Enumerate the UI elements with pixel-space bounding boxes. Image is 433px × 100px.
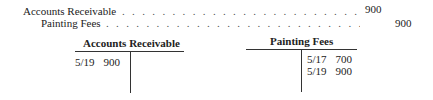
t-account-center-rule bbox=[301, 49, 302, 92]
entry-date: 5/19 bbox=[307, 65, 327, 77]
journal-debit-amount: 900 bbox=[365, 4, 382, 15]
leader-dots: . . . . . . . . . . . . . . . . . . . . … bbox=[122, 6, 360, 17]
t-account-title: Accounts Receivable bbox=[83, 38, 180, 49]
entry-date: 5/19 bbox=[75, 56, 95, 68]
t-account-title: Painting Fees bbox=[270, 36, 333, 47]
credit-entry: 5/17700 bbox=[307, 54, 352, 65]
journal-debit-account: Accounts Receivable bbox=[23, 6, 116, 17]
debit-entry: 5/19900 bbox=[75, 57, 120, 68]
entry-date: 5/17 bbox=[307, 53, 327, 65]
journal-credit-account: Painting Fees bbox=[41, 18, 101, 29]
entry-amount: 900 bbox=[336, 65, 353, 77]
entry-amount: 900 bbox=[104, 56, 121, 68]
journal-credit-amount: 900 bbox=[395, 18, 412, 29]
entry-amount: 700 bbox=[336, 53, 353, 65]
leader-dots: . . . . . . . . . . . . . . . . . . . . … bbox=[106, 18, 360, 29]
t-account-center-rule bbox=[130, 51, 131, 93]
credit-entry: 5/19900 bbox=[307, 66, 352, 77]
